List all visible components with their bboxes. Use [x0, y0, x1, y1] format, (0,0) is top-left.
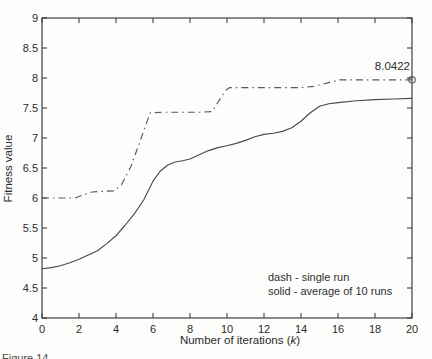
solid-series-path — [42, 98, 412, 268]
y-tick-label: 4.5 — [2, 282, 38, 294]
x-tick-label: 0 — [27, 323, 57, 335]
y-tick-label: 5 — [2, 252, 38, 264]
x-axis-title: Number of iterations (k) — [55, 334, 425, 347]
legend-note-dash: dash - single run — [268, 271, 349, 284]
y-tick-label: 9 — [2, 12, 38, 24]
dashed-series-path — [42, 80, 412, 198]
legend-note-solid: solid - average of 10 runs — [268, 285, 392, 298]
x-axis-title-suffix: ) — [296, 334, 300, 346]
x-axis-title-prefix: Number of iterations ( — [180, 334, 291, 346]
y-tick-label: 4 — [2, 312, 38, 324]
caption-fragment: Figure 14. — [2, 352, 52, 359]
y-tick-label: 8 — [2, 72, 38, 84]
figure-root: 0246810121416182044.555.566.577.588.59 F… — [0, 0, 432, 359]
plot-svg — [0, 0, 432, 359]
end-value-annotation: 8.0422 — [350, 59, 410, 73]
y-tick-label: 8.5 — [2, 42, 38, 54]
y-axis-title: Fitness value — [2, 109, 15, 229]
